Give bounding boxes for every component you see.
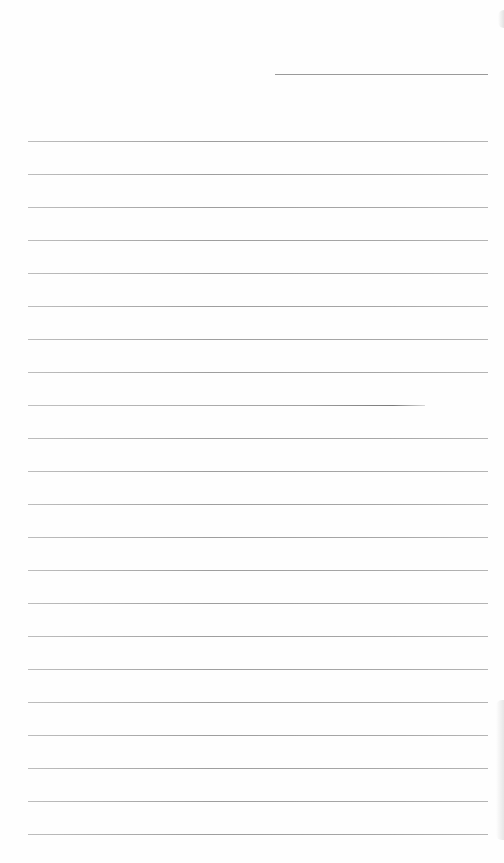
ruled-line (28, 834, 488, 835)
ruled-line (28, 273, 488, 274)
ruled-line (28, 735, 488, 736)
ruled-line (28, 669, 488, 670)
ruled-line (28, 801, 488, 802)
ruled-line (28, 405, 425, 406)
ruled-line (28, 306, 488, 307)
ruled-line (28, 372, 488, 373)
ruled-line (28, 240, 488, 241)
ruled-line (28, 636, 488, 637)
ruled-line (28, 768, 488, 769)
ruled-line (28, 438, 488, 439)
header-date-line (275, 74, 488, 75)
ruled-line (28, 603, 488, 604)
page-edge-shadow-bottom (496, 700, 504, 840)
page-edge-shadow-top (498, 10, 504, 28)
lined-page (0, 0, 504, 863)
ruled-line (28, 471, 488, 472)
ruled-line (28, 702, 488, 703)
ruled-line (28, 570, 488, 571)
ruled-line (28, 174, 488, 175)
ruled-line (28, 504, 488, 505)
ruled-line (28, 537, 488, 538)
ruled-line (28, 141, 488, 142)
ruled-line (28, 339, 488, 340)
ruled-line (28, 207, 488, 208)
